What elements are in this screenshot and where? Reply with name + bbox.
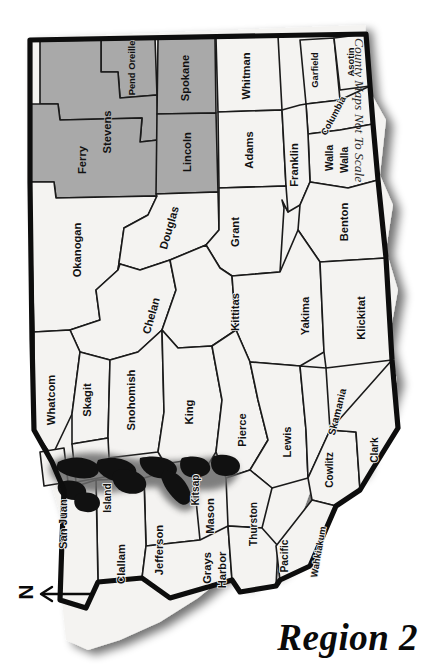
county-garfield[interactable] (300, 38, 340, 104)
county-skagit[interactable] (72, 352, 110, 444)
region-title: Region 2 (277, 616, 418, 659)
county-adams[interactable] (218, 110, 286, 188)
county-spokane[interactable] (157, 38, 216, 114)
county-grant[interactable] (206, 186, 288, 276)
compass-rose: N (16, 578, 102, 612)
county-klickitat[interactable] (320, 258, 392, 368)
county-whitman[interactable] (216, 36, 282, 112)
county-map-figure: Pend Oreille Stevens Ferry Spokane Linco… (0, 0, 430, 667)
county-lincoln[interactable] (156, 113, 218, 194)
scale-disclaimer: County Maps Not To Scale (351, 38, 367, 218)
county-walla-walla[interactable] (308, 124, 378, 188)
compass-north-letter: N (14, 584, 38, 599)
county-jefferson[interactable] (96, 478, 146, 582)
north-arrow-icon (36, 584, 98, 604)
